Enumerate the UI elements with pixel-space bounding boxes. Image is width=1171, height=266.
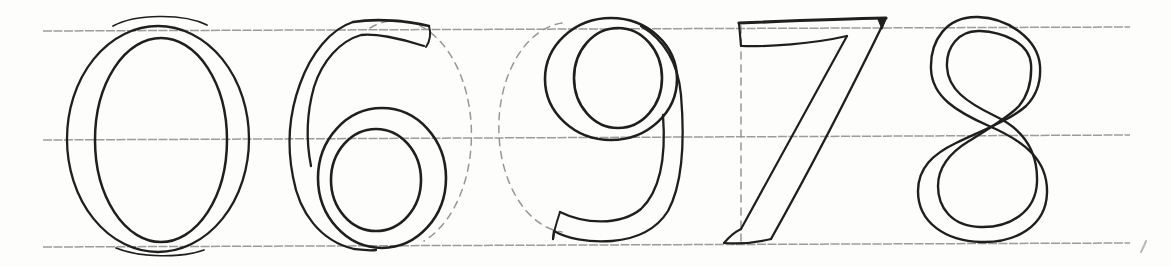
numerals-sketch xyxy=(0,0,1171,266)
scanned-lettering-sheet xyxy=(0,0,1171,266)
